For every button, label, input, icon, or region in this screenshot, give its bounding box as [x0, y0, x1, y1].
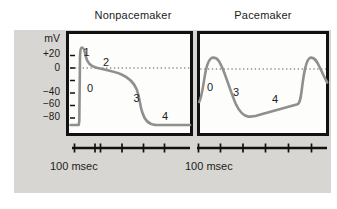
figure-cardiac-action-potentials: Nonpacemaker Pacemaker mV +20 0 −40 −60 … [0, 0, 337, 209]
traces-and-axes-layer [0, 0, 337, 209]
phase-label-0-pacemaker: 0 [205, 81, 215, 93]
phase-label-2-nonpacemaker: 2 [101, 56, 111, 68]
phase-label-4-nonpacemaker: 4 [160, 110, 170, 122]
time-scale-label-pacemaker: 100 msec [185, 160, 233, 172]
phase-label-4-pacemaker: 4 [270, 93, 280, 105]
phase-label-3-pacemaker: 3 [231, 86, 241, 98]
phase-label-3-nonpacemaker: 3 [132, 92, 142, 104]
phase-label-0-nonpacemaker: 0 [85, 82, 95, 94]
pacemaker-trace [199, 58, 327, 117]
phase-label-1-nonpacemaker: 1 [82, 46, 92, 58]
time-scale-label-nonpacemaker: 100 msec [50, 160, 98, 172]
y-axis-tick-marks [70, 56, 75, 119]
